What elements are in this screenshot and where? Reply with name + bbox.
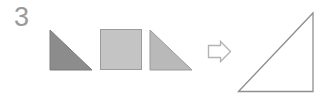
- right-triangle-light-icon: [150, 30, 192, 70]
- figure-canvas: [0, 0, 330, 102]
- rightwards-arrow-icon: [209, 42, 231, 62]
- right-triangle-large-outline-icon: [239, 13, 314, 92]
- shape-composition-figure: 3: [0, 0, 330, 102]
- square-light-icon: [101, 30, 142, 70]
- right-triangle-dark-icon: [50, 30, 92, 70]
